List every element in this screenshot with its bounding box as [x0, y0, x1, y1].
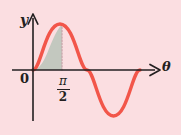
- origin-label: 0: [20, 72, 29, 85]
- sine-curve-figure: y θ 0 π 2: [0, 0, 181, 135]
- tick-label-pi-over-2-numerator: π: [53, 75, 73, 88]
- tick-label-pi-over-2: π 2: [53, 75, 73, 104]
- tick-label-pi-over-2-denominator: 2: [53, 91, 73, 104]
- y-axis-label: y: [20, 13, 28, 27]
- theta-axis-label: θ: [162, 60, 171, 73]
